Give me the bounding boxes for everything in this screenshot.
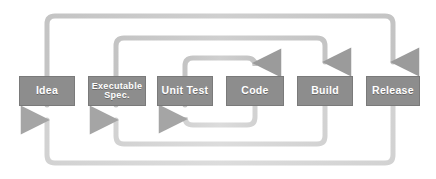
- stage-box-unit-test[interactable]: Unit Test: [157, 76, 213, 106]
- stage-label-idea: Idea: [34, 85, 60, 96]
- stage-label-executable-spec: Executable Spec.: [90, 82, 145, 101]
- stage-box-idea[interactable]: Idea: [19, 76, 75, 106]
- loop-code-to-unit-test: [185, 106, 255, 125]
- stage-label-code: Code: [239, 85, 270, 96]
- loop-executable-spec-to-build: [116, 38, 325, 105]
- loop-release-to-idea: [47, 106, 393, 163]
- loop-release-to-idea-path: [47, 106, 393, 163]
- loop-build-to-executable-spec: [116, 106, 325, 144]
- loop-build-to-executable-spec-path: [116, 106, 325, 144]
- loop-executable-spec-to-build-path: [116, 38, 325, 105]
- stage-box-executable-spec[interactable]: Executable Spec.: [88, 76, 146, 106]
- stage-box-build[interactable]: Build: [297, 76, 353, 106]
- loop-code-to-unit-test-path: [185, 106, 255, 125]
- stage-box-code[interactable]: Code: [226, 76, 284, 106]
- stage-label-release: Release: [370, 85, 416, 96]
- feedback-loop-diagram: Idea Executable Spec. Unit Test Code Bui…: [0, 0, 436, 179]
- stage-box-release[interactable]: Release: [366, 76, 420, 106]
- stage-label-build: Build: [309, 85, 341, 96]
- stage-label-unit-test: Unit Test: [160, 85, 211, 96]
